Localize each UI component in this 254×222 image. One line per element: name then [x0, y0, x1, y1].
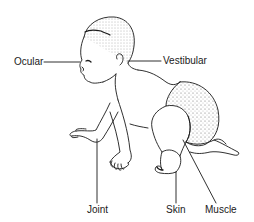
label-skin: Skin: [166, 205, 185, 215]
label-muscle: Muscle: [205, 205, 237, 215]
crawling-infant-illustration: [0, 0, 254, 222]
infant-belly: [130, 124, 148, 128]
infant-head: [80, 17, 138, 83]
infant-right-arm: [110, 100, 131, 170]
label-vestibular: Vestibular: [163, 56, 207, 66]
muscle-leader-line: [183, 140, 216, 203]
label-joint: Joint: [87, 205, 108, 215]
infant-diaper: [166, 82, 219, 146]
label-ocular: Ocular: [14, 57, 43, 67]
infant-left-arm: [70, 103, 118, 142]
